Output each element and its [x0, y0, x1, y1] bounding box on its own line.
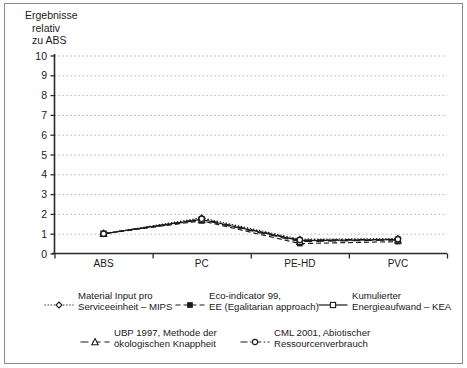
axis-lines: [52, 54, 447, 254]
y-tick-label-2: 2: [25, 209, 47, 220]
series-line-4: [104, 219, 398, 240]
ubp-key: [80, 333, 110, 342]
legend-label-line-1: Kumulierter: [352, 290, 451, 301]
x-tick-label-abs: ABS: [55, 258, 153, 269]
y-tick-label-3: 3: [25, 189, 47, 200]
legend-label-line-2: ökologischen Knappheit: [114, 338, 217, 349]
legend-label-line-2: Energieaufwand – KEA: [352, 301, 451, 312]
series-4-point-2: [297, 237, 302, 242]
series-line-2: [104, 219, 398, 240]
legend-label-line-1: CML 2001, Abiotischer: [274, 327, 370, 338]
legend-label-cml: CML 2001, AbiotischerRessourcenverbrauch: [274, 327, 370, 350]
series-4-point-3: [395, 237, 400, 242]
gridlines: [55, 56, 448, 234]
legend-label-line-1: Material Input pro: [78, 290, 172, 301]
y-tick-label-6: 6: [25, 130, 47, 141]
y-tick-label-7: 7: [25, 110, 47, 121]
legend-label-mips: Material Input proServiceeinheit – MIPS: [78, 290, 172, 313]
y-tick-label-1: 1: [25, 229, 47, 240]
y-tick-label-10: 10: [25, 51, 47, 62]
y-tick-label-4: 4: [25, 169, 47, 180]
legend-label-kea: KumulierterEnergieaufwand – KEA: [352, 290, 451, 313]
series-4-point-0: [101, 231, 106, 236]
y-tick-label-8: 8: [25, 90, 47, 101]
y-tick-label-9: 9: [25, 70, 47, 81]
y-tick-label-0: 0: [25, 249, 47, 260]
legend-label-line-2: Serviceeinheit – MIPS: [78, 301, 172, 312]
chart-figure: Ergebnisse relativ zu ABS 012345678910 A…: [0, 0, 467, 368]
legend-label-line-2: EE (Egalitarian approach): [209, 301, 319, 312]
series-line-0: [104, 218, 398, 239]
series-lines: [104, 218, 398, 244]
legend-label-line-1: UBP 1997, Methode der: [114, 327, 217, 338]
eco99-key: [175, 296, 205, 305]
legend-label-line-1: Eco-indicator 99,: [209, 290, 319, 301]
x-tick-label-pc: PC: [153, 258, 251, 269]
legend-label-eco99: Eco-indicator 99,EE (Egalitarian approac…: [209, 290, 319, 313]
kea-key: [318, 296, 348, 305]
y-tick-label-5: 5: [25, 150, 47, 161]
x-tick-label-pvc: PVC: [349, 258, 447, 269]
legend-label-ubp: UBP 1997, Methode derökologischen Knapph…: [114, 327, 217, 350]
series-line-3: [104, 220, 398, 242]
mips-key: [44, 296, 74, 305]
cml-key: [240, 333, 270, 342]
x-tick-label-pe-hd: PE-HD: [251, 258, 349, 269]
series-4-point-1: [199, 216, 204, 221]
legend-label-line-2: Ressourcenverbrauch: [274, 338, 370, 349]
